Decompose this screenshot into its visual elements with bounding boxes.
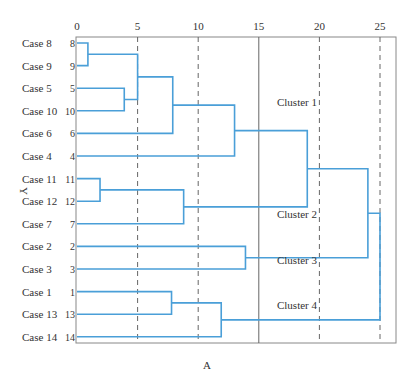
y-axis-label: Y <box>18 187 30 195</box>
leaf-number: 9 <box>70 61 75 72</box>
leaf-number: 12 <box>65 196 75 207</box>
dendrogram-branch <box>77 246 245 269</box>
dendrogram-branch <box>77 88 124 111</box>
case-label: Case 4 <box>22 150 52 162</box>
case-label: Case 1 <box>22 286 52 298</box>
x-axis-ticks: 0510152025 <box>74 20 386 32</box>
x-tick-label: 15 <box>253 20 265 32</box>
leaf-number: 2 <box>70 241 75 252</box>
figure-caption: A <box>203 359 211 371</box>
cluster-label: Cluster 2 <box>277 208 317 220</box>
dendrogram-branch <box>77 303 221 337</box>
case-label: Case 9 <box>22 60 52 72</box>
case-label: Case 3 <box>22 263 52 275</box>
x-tick-label: 10 <box>193 20 205 32</box>
x-tick-label: 25 <box>375 20 387 32</box>
case-label: Case 8 <box>22 37 52 49</box>
case-label: Case 2 <box>22 240 52 252</box>
case-label: Case 11 <box>22 173 57 185</box>
leaf-number: 10 <box>65 106 75 117</box>
case-label: Case 7 <box>22 218 52 230</box>
leaf-number: 13 <box>65 309 75 320</box>
leaf-number: 5 <box>70 83 75 94</box>
dendrogram-branches <box>77 43 380 337</box>
case-label: Case 14 <box>22 331 58 343</box>
leaf-number: 11 <box>65 174 75 185</box>
case-label: Case 6 <box>22 127 52 139</box>
x-tick-label: 0 <box>74 20 80 32</box>
leaf-number: 4 <box>70 151 75 162</box>
dendrogram-branch <box>77 292 172 315</box>
dendrogram-branch <box>184 131 308 207</box>
dendrogram-chart: 0510152025 Case 88Case 99Case 55Case 101… <box>0 0 416 378</box>
leaf-number: 1 <box>70 287 75 298</box>
case-label: Case 13 <box>22 308 58 320</box>
leaf-number: 7 <box>70 219 75 230</box>
cluster-label: Cluster 4 <box>277 299 318 311</box>
x-tick-label: 5 <box>135 20 141 32</box>
dendrogram-branch <box>77 105 235 156</box>
leaf-number: 3 <box>70 264 75 275</box>
dendrogram-branch <box>88 54 138 99</box>
leaf-number: 14 <box>65 332 75 343</box>
dendrogram-branch <box>77 179 100 202</box>
cluster-label: Cluster 1 <box>277 96 317 108</box>
leaf-number: 6 <box>70 128 75 139</box>
cluster-labels: Cluster 1Cluster 2Cluster 3Cluster 4 <box>277 96 318 311</box>
case-label: Case 12 <box>22 195 57 207</box>
x-tick-label: 20 <box>314 20 326 32</box>
case-label: Case 5 <box>22 82 52 94</box>
leaf-number: 8 <box>70 38 75 49</box>
dendrogram-branch <box>77 190 184 224</box>
dendrogram-branch <box>77 43 88 66</box>
cluster-label: Cluster 3 <box>277 254 318 266</box>
case-label: Case 10 <box>22 105 58 117</box>
